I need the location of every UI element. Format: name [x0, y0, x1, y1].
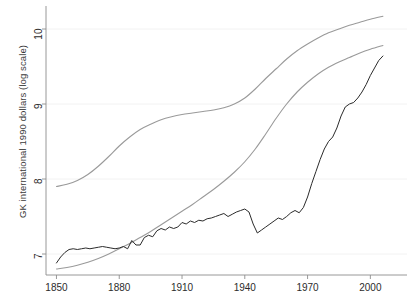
- x-tick-label: 1970: [288, 282, 328, 293]
- series-line-upper-smooth-curve: [56, 16, 382, 186]
- chart-figure: GK international 1990 dollars (log scale…: [0, 0, 407, 299]
- axis-lines-group: [46, 6, 407, 275]
- line-chart-canvas: [0, 0, 407, 299]
- y-axis-title: GK international 1990 dollars (log scale…: [17, 22, 28, 242]
- y-tick-label: 10: [33, 29, 44, 51]
- gridlines-group: [46, 29, 407, 254]
- axis-ticks-group: [42, 29, 370, 279]
- series-line-lower-smooth-curve: [56, 46, 382, 270]
- x-tick-label: 1940: [225, 282, 265, 293]
- data-series-group: [56, 16, 382, 269]
- x-tick-label: 1850: [36, 282, 76, 293]
- y-tick-label: 7: [33, 254, 44, 276]
- x-tick-label: 1880: [99, 282, 139, 293]
- x-tick-label: 1910: [162, 282, 202, 293]
- x-tick-label: 2000: [350, 282, 390, 293]
- y-tick-label: 8: [33, 179, 44, 201]
- y-tick-label: 9: [33, 104, 44, 126]
